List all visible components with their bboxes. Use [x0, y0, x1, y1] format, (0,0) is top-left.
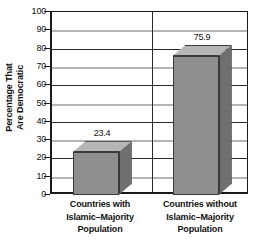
plot-area: 23.475.9 — [50, 11, 248, 194]
x-axis-category-label: Countries withoutIslamic–MajorityPopulat… — [138, 198, 262, 236]
category-divider — [152, 12, 153, 192]
bar-value-label: 75.9 — [177, 32, 227, 42]
x-axis-category-label-line: Islamic–Majority — [138, 211, 262, 224]
x-axis-category-label-line: Population — [138, 223, 262, 236]
bar[interactable] — [173, 45, 232, 195]
bar-front-face — [173, 56, 219, 195]
bar-value-label: 23.4 — [77, 128, 127, 138]
bar-front-face — [73, 152, 119, 195]
y-axis-tick-labels: 1009080706050403020100 — [22, 0, 46, 194]
bar-side-face — [219, 45, 232, 195]
y-axis-title-line-1: Percentage That — [4, 63, 14, 132]
y-axis-tick-mark — [44, 194, 50, 195]
x-axis-category-label-line: Countries without — [138, 198, 262, 211]
bar[interactable] — [73, 141, 132, 195]
